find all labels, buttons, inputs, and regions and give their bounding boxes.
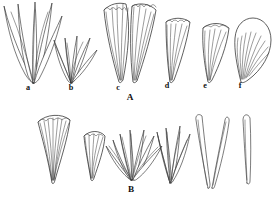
group-label-b: B <box>128 184 134 194</box>
label-e: e <box>203 81 207 90</box>
group-label-a: A <box>127 92 134 102</box>
botanical-line-drawing: a b c d e f A B <box>0 0 273 199</box>
label-a: a <box>26 83 30 92</box>
figure-plate: a b c d e f A B <box>0 0 273 199</box>
label-b: b <box>69 83 74 92</box>
label-c: c <box>116 83 120 92</box>
label-f: f <box>239 81 242 90</box>
label-d: d <box>165 81 170 90</box>
